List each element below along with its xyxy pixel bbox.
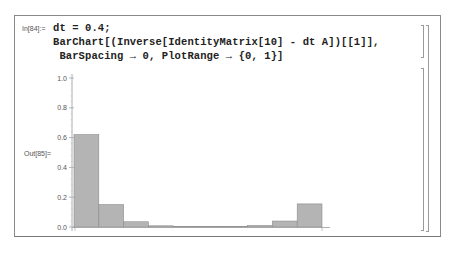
bar <box>223 226 248 227</box>
bar <box>173 226 198 227</box>
y-tick-label: 0.4 <box>57 164 67 171</box>
y-tick-label: 0.2 <box>57 194 67 201</box>
bar <box>297 204 322 227</box>
bar <box>272 221 297 227</box>
bar <box>198 226 223 227</box>
bar <box>248 226 273 227</box>
bar <box>74 135 99 227</box>
bar-chart: 0.00.20.40.60.81.0 <box>0 0 452 260</box>
y-tick-label: 0.6 <box>57 134 67 141</box>
bar <box>148 226 173 227</box>
y-tick-label: 0.0 <box>57 224 67 231</box>
y-tick-label: 1.0 <box>57 75 67 82</box>
y-tick-label: 0.8 <box>57 104 67 111</box>
bar <box>124 222 149 227</box>
bar <box>99 205 124 227</box>
